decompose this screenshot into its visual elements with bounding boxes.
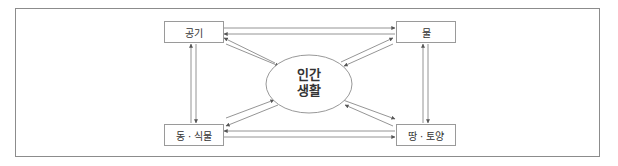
arrow-center-to-soil bbox=[343, 100, 395, 119]
node-soil-label: 땅 · 토양 bbox=[408, 128, 445, 143]
center-label-line1: 인간 bbox=[266, 67, 352, 83]
arrow-center-to-air bbox=[224, 38, 275, 63]
node-soil: 땅 · 토양 bbox=[396, 124, 456, 146]
arrow-center-to-water bbox=[341, 38, 393, 62]
node-water: 물 bbox=[396, 21, 456, 43]
center-label-line2: 생활 bbox=[266, 83, 352, 99]
node-air: 공기 bbox=[164, 21, 224, 43]
node-air-label: 공기 bbox=[185, 25, 203, 40]
arrow-air-to-center bbox=[226, 44, 279, 66]
arrow-flora-to-center bbox=[226, 100, 274, 118]
node-flora-fauna-label: 동 · 식물 bbox=[176, 128, 213, 143]
arrow-water-to-center bbox=[344, 44, 393, 66]
center-node-label: 인간 생활 bbox=[266, 67, 352, 99]
node-flora-fauna: 동 · 식물 bbox=[164, 124, 224, 146]
node-water-label: 물 bbox=[422, 25, 431, 40]
